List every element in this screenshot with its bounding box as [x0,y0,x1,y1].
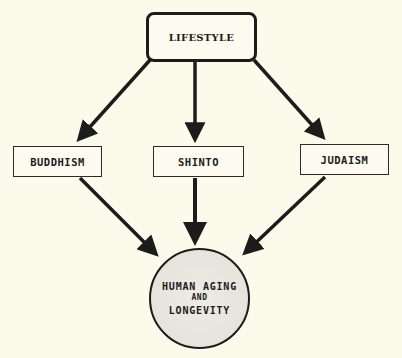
judaism-label: JUDAISM [321,154,369,166]
shinto-label: SHINTO [178,156,219,168]
arrow-lifestyle-to-judaism [254,60,322,136]
arrow-buddhism-to-outcome [80,178,155,253]
arrow-judaism-to-outcome [246,177,325,252]
outcome-label-line1: HUMAN AGING [162,280,237,294]
arrow-lifestyle-to-buddhism [80,60,150,138]
outcome-label-line2: AND [192,293,208,304]
outcome-circle-node: HUMAN AGING AND LONGEVITY [149,248,250,349]
lifestyle-node: LIFESTYLE [146,12,257,62]
judaism-node: JUDAISM [300,144,389,175]
buddhism-node: BUDDHISM [13,146,102,177]
buddhism-label: BUDDHISM [30,156,85,168]
outcome-label-line3: LONGEVITY [169,304,230,318]
shinto-node: SHINTO [153,146,244,177]
lifestyle-label: LIFESTYLE [169,32,235,43]
flowchart-canvas: LIFESTYLE BUDDHISM SHINTO JUDAISM HUMAN … [0,0,402,358]
